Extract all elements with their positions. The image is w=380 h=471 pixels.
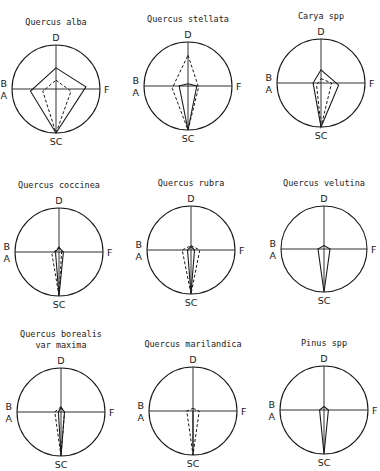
diagram-panel: Quercus albaDBAFSC <box>0 17 109 147</box>
axis-label-d: D <box>57 355 64 366</box>
axis-label-a: A <box>270 250 277 261</box>
axis-label-a: A <box>269 411 276 422</box>
axis-label-f: F <box>236 81 241 92</box>
diagram-panel: Quercus stellataDBAFSC <box>132 14 241 144</box>
axis-label-a: A <box>138 412 145 423</box>
axis-label-a: A <box>6 413 13 424</box>
axis-label-b: B <box>265 72 272 83</box>
axis-label-b: B <box>268 399 275 410</box>
axis-label-d: D <box>320 193 327 204</box>
axis-label-sc: SC <box>55 459 68 470</box>
diagram-panel: Carya sppDBAFSC <box>265 11 374 141</box>
axis-label-d: D <box>317 26 324 37</box>
axis-label-f: F <box>107 247 112 258</box>
axis-label-a: A <box>1 90 8 101</box>
axis-label-d: D <box>187 193 194 204</box>
axis-label-d: D <box>55 195 62 206</box>
axis-label-f: F <box>241 406 246 417</box>
axis-label-sc: SC <box>187 458 200 469</box>
axis-label-b: B <box>5 401 12 412</box>
diagram-panel: Quercus marilandicaDBAFSC <box>137 339 246 469</box>
axis-label-d: D <box>184 29 191 40</box>
panel-title: Quercus rubra <box>158 178 225 188</box>
panel-title: Quercus stellata <box>147 14 229 24</box>
axis-label-a: A <box>136 251 143 262</box>
polar-diagram-figure: Quercus albaDBAFSCQuercus stellataDBAFSC… <box>0 0 380 471</box>
axis-label-sc: SC <box>185 297 198 308</box>
dashed-profile-polygon <box>43 80 71 133</box>
axis-label-f: F <box>109 407 114 418</box>
axis-label-sc: SC <box>182 133 195 144</box>
axis-label-sc: SC <box>50 136 63 147</box>
solid-profile-polygon <box>313 70 339 127</box>
axis-label-sc: SC <box>53 299 66 310</box>
axis-label-sc: SC <box>315 130 328 141</box>
axis-label-d: D <box>320 353 327 364</box>
axis-label-a: A <box>4 253 11 264</box>
panel-title: Pinus spp <box>301 338 347 348</box>
solid-profile-polygon <box>31 68 86 133</box>
diagram-panel: Pinus sppDBAFSC <box>268 338 377 468</box>
panel-title: Quercus alba <box>25 17 86 27</box>
panel-title: var maxima <box>35 340 86 350</box>
axis-label-b: B <box>137 400 144 411</box>
panel-title: Quercus borealis <box>20 329 102 339</box>
axis-label-b: B <box>132 75 139 86</box>
axis-label-f: F <box>104 84 109 95</box>
axis-label-f: F <box>371 244 376 255</box>
diagram-panel: Quercus velutinaDBAFSC <box>269 178 376 306</box>
axis-label-b: B <box>135 239 142 250</box>
panel-title: Quercus velutina <box>283 178 365 188</box>
axis-label-f: F <box>369 78 374 89</box>
axis-label-b: B <box>269 238 276 249</box>
diagram-panel: Quercus borealisvar maximaDBAFSC <box>5 329 114 470</box>
panel-title: Quercus coccinea <box>18 180 100 190</box>
axis-label-d: D <box>189 354 196 365</box>
axis-label-a: A <box>266 84 273 95</box>
axis-label-b: B <box>0 78 7 89</box>
axis-label-d: D <box>52 32 59 43</box>
diagram-panel: Quercus coccineaDBAFSC <box>3 180 112 310</box>
diagram-panel: Quercus rubraDBAFSC <box>135 178 244 308</box>
panel-title: Carya spp <box>298 11 344 21</box>
axis-label-b: B <box>3 241 10 252</box>
axis-label-f: F <box>372 405 377 416</box>
axis-label-f: F <box>239 245 244 256</box>
panel-title: Quercus marilandica <box>144 339 241 349</box>
axis-label-sc: SC <box>318 295 331 306</box>
axis-label-sc: SC <box>318 457 331 468</box>
axis-label-a: A <box>133 87 140 98</box>
